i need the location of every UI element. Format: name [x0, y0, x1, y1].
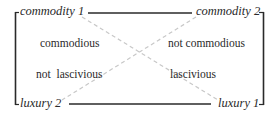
corner-label-top-right: commodity 2 [196, 5, 260, 18]
corner-label-bottom-right: luxury 1 [218, 97, 259, 110]
diagonal-commodity2-to-luxury2 [62, 17, 196, 100]
corner-label-bottom-left: luxury 2 [20, 97, 61, 110]
diagonal-commodity1-to-luxury1 [82, 17, 218, 100]
semiotic-square-diagram: commodity 1 commodity 2 luxury 2 luxury … [0, 0, 280, 115]
inner-label-upper-left: commodious [40, 38, 99, 50]
inner-label-lower-right: lascivious [170, 69, 216, 81]
inner-label-upper-right: not commodious [168, 38, 245, 50]
corner-label-top-left: commodity 1 [20, 5, 84, 18]
inner-label-lower-left: not lascivious [36, 69, 102, 81]
